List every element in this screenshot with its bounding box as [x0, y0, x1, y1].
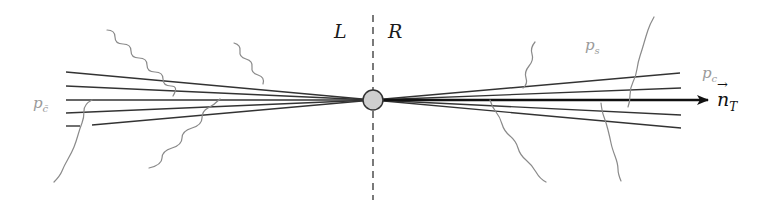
dijet-diagram — [0, 0, 770, 212]
right-hemisphere-label: R — [388, 22, 402, 41]
right-jet-line — [373, 73, 680, 100]
anticollinear-momentum-label: pc̄ — [33, 96, 48, 114]
right-jet-line — [373, 100, 681, 128]
soft-gluon-line — [234, 43, 263, 84]
right-jet-line — [373, 100, 681, 115]
left-hemisphere-label: L — [334, 22, 347, 41]
soft-gluon-line — [523, 42, 535, 88]
left-jet-line — [92, 100, 373, 125]
left-jet-line — [66, 100, 373, 113]
thrust-axis-label: nT — [717, 90, 737, 113]
soft-gluon-line — [601, 103, 621, 181]
hard-vertex — [363, 90, 383, 110]
left-jet-line — [66, 72, 373, 100]
soft-gluon-line — [107, 30, 176, 96]
left-jet-line — [66, 86, 373, 100]
soft-gluon-line — [628, 17, 654, 107]
soft-momentum-label: ps — [585, 38, 600, 56]
collinear-momentum-label: pc — [702, 66, 717, 84]
soft-gluon-line — [490, 100, 546, 182]
right-jet-line — [373, 88, 681, 100]
